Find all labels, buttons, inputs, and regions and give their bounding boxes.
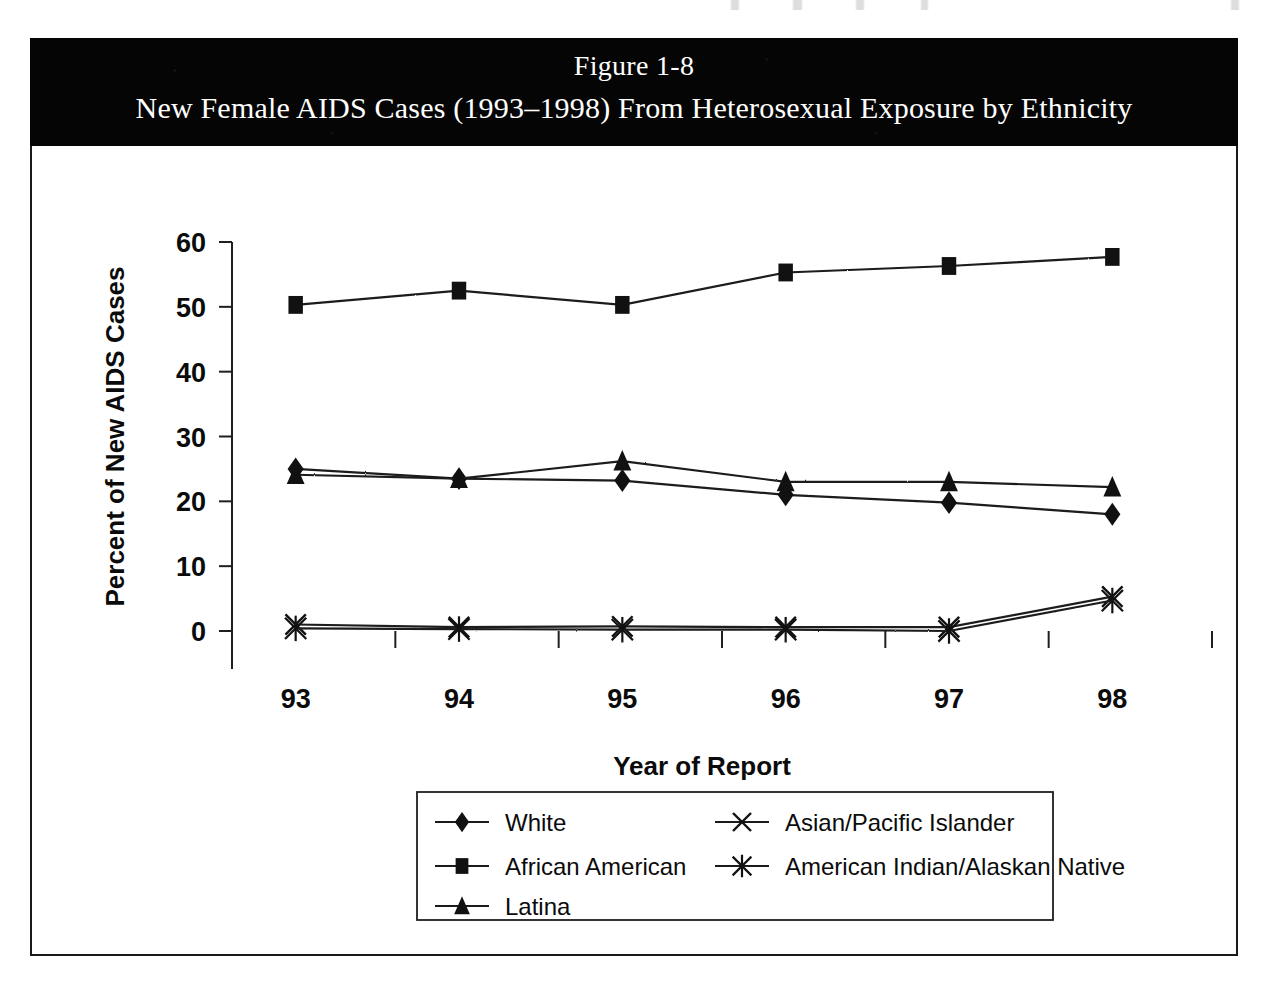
y-tick-label: 0 [191, 617, 206, 647]
legend-entry[interactable]: American Indian/Alaskan Native [715, 853, 1125, 880]
line-chart: 0102030405060 939495969798 Year of Repor… [32, 146, 1236, 952]
data-point-marker [288, 296, 302, 314]
series-line [296, 461, 1113, 487]
data-point-marker [615, 296, 629, 314]
x-tick-label: 93 [281, 684, 311, 714]
figure-page: Figure 1-8 New Female AIDS Cases (1993–1… [0, 0, 1270, 991]
data-point-marker [614, 469, 630, 492]
data-series [287, 450, 1122, 496]
legend-label: Latina [505, 893, 571, 920]
legend-entry[interactable]: Latina [435, 893, 571, 920]
y-axis: 0102030405060 [176, 228, 232, 669]
x-tick-label: 98 [1097, 684, 1127, 714]
series-line [296, 257, 1113, 305]
data-series [288, 248, 1119, 314]
data-point-marker [1104, 503, 1120, 526]
x-axis: 939495969798 [232, 631, 1212, 714]
y-axis-title: Percent of New AIDS Cases [100, 266, 130, 606]
data-point-marker [613, 450, 631, 470]
data-series [288, 457, 1121, 525]
legend-label: African American [505, 853, 686, 880]
y-tick-label: 60 [176, 228, 206, 258]
y-tick-label: 50 [176, 293, 206, 323]
series-line [296, 469, 1113, 514]
figure-banner: Figure 1-8 New Female AIDS Cases (1993–1… [30, 38, 1238, 146]
legend-entry[interactable]: African American [435, 853, 686, 880]
data-point-marker [942, 257, 956, 275]
y-tick-label: 20 [176, 487, 206, 517]
x-tick-label: 96 [771, 684, 801, 714]
gridlines [232, 242, 1212, 631]
legend-marker-diamond-icon [455, 812, 469, 832]
data-point-marker [452, 282, 466, 300]
y-tick-label: 10 [176, 552, 206, 582]
legend-marker-square-icon [456, 858, 469, 874]
chart-frame: 0102030405060 939495969798 Year of Repor… [30, 146, 1238, 956]
legend-label: American Indian/Alaskan Native [785, 853, 1125, 880]
legend-entry[interactable]: White [435, 809, 566, 836]
data-point-marker [1102, 588, 1123, 614]
x-tick-label: 97 [934, 684, 964, 714]
legend-entry[interactable]: Asian/Pacific Islander [715, 809, 1014, 836]
legend-label: White [505, 809, 566, 836]
data-point-marker [1105, 248, 1119, 266]
figure-number: Figure 1-8 [30, 46, 1238, 86]
chart-legend: WhiteAsian/Pacific IslanderAfrican Ameri… [417, 792, 1125, 920]
x-tick-label: 94 [444, 684, 474, 714]
x-tick-label: 95 [607, 684, 637, 714]
x-axis-title: Year of Report [613, 751, 791, 781]
figure-title: New Female AIDS Cases (1993–1998) From H… [30, 86, 1238, 130]
figure-container: Figure 1-8 New Female AIDS Cases (1993–1… [30, 38, 1238, 956]
page-bleed-artifact [400, 0, 1260, 10]
legend-label: Asian/Pacific Islander [785, 809, 1014, 836]
data-series [285, 588, 1123, 644]
y-tick-label: 30 [176, 423, 206, 453]
data-point-marker [778, 264, 792, 282]
y-tick-label: 40 [176, 358, 206, 388]
data-point-marker [941, 491, 957, 514]
